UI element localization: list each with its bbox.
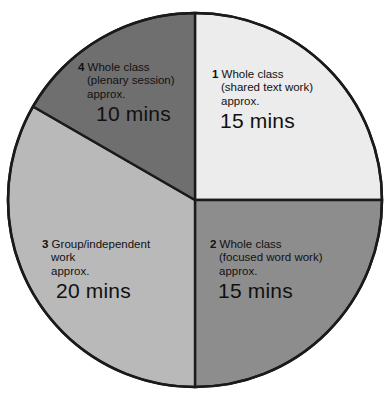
pie-slice-2-time: 15 mins bbox=[210, 279, 323, 303]
pie-slice-3-index: 3 bbox=[42, 238, 48, 250]
pie-slice-3-label: 3 Group/independent work approx. 20 mins bbox=[42, 238, 150, 303]
pie-slice-4-index: 4 bbox=[78, 61, 84, 73]
pie-slice-2-title: Whole class bbox=[220, 238, 282, 250]
pie-chart-svg bbox=[0, 0, 390, 396]
pie-slice-2-index: 2 bbox=[210, 238, 216, 250]
pie-slice-4-subtitle: (plenary session) bbox=[78, 74, 175, 87]
pie-slice-3-subtitle: work bbox=[42, 251, 150, 264]
pie-slice-2-label: 2 Whole class (focused word work) approx… bbox=[210, 238, 323, 303]
pie-slice-2-subtitle: (focused word work) bbox=[210, 251, 323, 264]
pie-slice-1-heading: 1 Whole class bbox=[212, 68, 313, 81]
pie-slice-3-heading: 3 Group/independent bbox=[42, 238, 150, 251]
pie-slice-4-heading: 4 Whole class bbox=[78, 61, 175, 74]
pie-slice-3-approx: approx. bbox=[42, 265, 150, 278]
pie-slice-4-label: 4 Whole class (plenary session) approx. … bbox=[78, 61, 175, 126]
pie-slice-2-heading: 2 Whole class bbox=[210, 238, 323, 251]
pie-slice-1-time: 15 mins bbox=[212, 109, 313, 133]
pie-slice-3-title: Group/independent bbox=[52, 238, 150, 250]
pie-slice-4-title: Whole class bbox=[88, 61, 150, 73]
pie-slice-4-time: 10 mins bbox=[78, 102, 175, 126]
pie-slice-1-subtitle: (shared text work) bbox=[212, 81, 313, 94]
pie-slice-4-approx: approx. bbox=[78, 88, 175, 101]
pie-slice-1-index: 1 bbox=[212, 68, 218, 80]
pie-slice-1-title: Whole class bbox=[222, 68, 284, 80]
pie-slice-1-approx: approx. bbox=[212, 95, 313, 108]
pie-slice-1-label: 1 Whole class (shared text work) approx.… bbox=[212, 68, 313, 133]
pie-slice-2-approx: approx. bbox=[210, 265, 323, 278]
pie-chart-figure: 1 Whole class (shared text work) approx.… bbox=[0, 0, 390, 396]
pie-slice-3-time: 20 mins bbox=[42, 279, 150, 303]
